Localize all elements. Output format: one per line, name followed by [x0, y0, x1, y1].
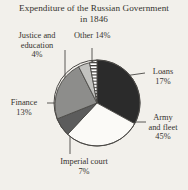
slice-label-finance-line1: Finance: [11, 98, 38, 107]
slice-label-justice-percent: 4%: [6, 50, 68, 60]
slice-label-army-line2: and fleet: [148, 123, 177, 132]
pie-chart-figure: Expenditure of the Russian Government in…: [0, 0, 188, 190]
slice-label-finance-percent: 13%: [2, 108, 46, 118]
slice-label-other: Other 14%: [74, 31, 111, 41]
slice-label-army-line1: Army: [153, 113, 173, 122]
slice-label-imperial-court: Imperial court 7%: [34, 157, 134, 176]
slice-label-loans-line1: Loans: [153, 67, 173, 76]
slice-label-loans-percent: 17%: [141, 77, 185, 87]
slice-label-army-and-fleet: Army and fleet 45%: [139, 113, 187, 142]
slice-label-army-percent: 45%: [139, 132, 187, 142]
slice-label-other-text: Other 14%: [74, 31, 111, 40]
slice-label-justice-line1: Justice and: [19, 31, 56, 40]
slice-label-justice-and-education: Justice and education 4%: [6, 31, 68, 60]
slice-label-justice-line2: education: [21, 41, 54, 50]
slice-label-court-percent: 7%: [34, 167, 134, 177]
slice-label-court-line1: Imperial court: [60, 157, 108, 166]
slice-label-loans: Loans 17%: [141, 67, 185, 86]
slice-label-finance: Finance 13%: [2, 98, 46, 117]
